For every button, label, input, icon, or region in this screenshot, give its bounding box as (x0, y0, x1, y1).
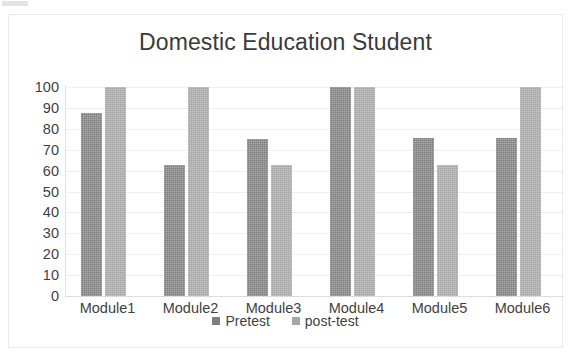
bar-group-module4 (330, 87, 375, 296)
y-tick-label: 80 (13, 121, 59, 137)
gridline-40 (66, 212, 564, 213)
bar-module3-post-test[interactable] (271, 165, 292, 296)
bar-module1-pretest[interactable] (81, 113, 102, 296)
legend-label: post-test (305, 313, 359, 329)
legend-item-pretest[interactable]: Pretest (212, 313, 269, 329)
chart-title: Domestic Education Student (9, 29, 562, 56)
scan-artifact (2, 1, 28, 6)
y-tick-label: 60 (13, 163, 59, 179)
chart-legend: Pretestpost-test (9, 313, 562, 329)
bar-group-module2 (164, 87, 209, 296)
bar-group-module1 (81, 87, 126, 296)
gridline-10 (66, 275, 564, 276)
legend-swatch-icon (212, 317, 220, 325)
legend-swatch-icon (292, 317, 300, 325)
gridline-0 (66, 296, 564, 297)
y-tick-label: 70 (13, 142, 59, 158)
y-tick-label: 0 (13, 288, 59, 304)
legend-item-post-test[interactable]: post-test (292, 313, 359, 329)
y-tick-label: 40 (13, 204, 59, 220)
bar-module5-pretest[interactable] (413, 138, 434, 296)
y-tick-label: 50 (13, 184, 59, 200)
chart-frame: Domestic Education Student 0102030405060… (8, 14, 563, 348)
gridline-70 (66, 150, 564, 151)
bar-module6-post-test[interactable] (520, 87, 541, 296)
y-tick-label: 90 (13, 100, 59, 116)
gridline-100 (66, 87, 564, 88)
y-axis-tick-labels: 0102030405060708090100 (9, 87, 59, 296)
gridline-50 (66, 192, 564, 193)
bar-module2-pretest[interactable] (164, 165, 185, 296)
bar-module6-pretest[interactable] (496, 138, 517, 296)
bar-module5-post-test[interactable] (437, 165, 458, 296)
bar-module2-post-test[interactable] (188, 87, 209, 296)
gridline-60 (66, 171, 564, 172)
y-tick-label: 10 (13, 267, 59, 283)
bar-group-module3 (247, 87, 292, 296)
bar-module4-post-test[interactable] (354, 87, 375, 296)
gridline-80 (66, 129, 564, 130)
gridline-30 (66, 233, 564, 234)
bar-group-module5 (413, 87, 458, 296)
bar-module4-pretest[interactable] (330, 87, 351, 296)
legend-label: Pretest (225, 313, 269, 329)
bar-module3-pretest[interactable] (247, 139, 268, 296)
plot-area (66, 87, 564, 296)
gridline-90 (66, 108, 564, 109)
bar-module1-post-test[interactable] (105, 87, 126, 296)
y-tick-label: 30 (13, 225, 59, 241)
bar-group-module6 (496, 87, 541, 296)
gridline-20 (66, 254, 564, 255)
y-tick-label: 100 (13, 79, 59, 95)
y-tick-label: 20 (13, 246, 59, 262)
